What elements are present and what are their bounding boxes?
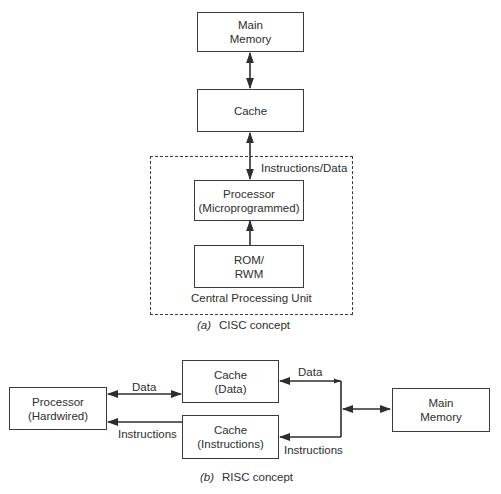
risc-main-memory-box: Main Memory [392,388,490,432]
cisc-processor-line2: (Microprogrammed) [199,201,300,215]
risc-processor-line2: (Hardwired) [28,409,88,423]
cisc-caption: (a)CISC concept [197,318,290,332]
cache-instructions-box: Cache (Instructions) [182,415,279,459]
rom-line2: RWM [235,267,264,281]
rom-rwm-box: ROM/ RWM [194,245,304,288]
rom-line1: ROM/ [234,253,264,267]
cpu-label: Central Processing Unit [191,291,312,305]
cisc-main-memory-line1: Main [238,18,263,32]
cisc-processor-box: Processor (Microprogrammed) [194,180,304,221]
cache-instructions-line1: Cache [214,423,247,437]
risc-data-label-left: Data [132,380,156,394]
cache-data-line1: Cache [214,368,247,382]
cisc-caption-text: CISC concept [219,319,290,331]
cisc-cache-label: Cache [234,104,267,118]
cisc-processor-line1: Processor [223,187,275,201]
cache-data-line2: (Data) [215,382,247,396]
cache-data-box: Cache (Data) [182,360,279,403]
cisc-main-memory-line2: Memory [230,32,272,46]
risc-data-label-right: Data [298,365,322,379]
risc-instructions-label-left: Instructions [118,427,177,441]
cache-instructions-line2: (Instructions) [197,437,263,451]
risc-main-memory-line1: Main [429,396,454,410]
risc-caption-text: RISC concept [222,471,293,483]
risc-caption-tag: (b) [200,471,214,483]
cisc-cache-box: Cache [197,89,304,132]
architecture-diagram: Main Memory Cache Instructions/Data Proc… [0,0,501,494]
risc-main-memory-line2: Memory [420,410,462,424]
instructions-data-label: Instructions/Data [261,161,347,175]
cisc-main-memory-box: Main Memory [197,12,304,52]
risc-processor-line1: Processor [32,395,84,409]
cisc-caption-tag: (a) [197,319,211,331]
risc-caption: (b)RISC concept [200,470,293,484]
risc-processor-box: Processor (Hardwired) [9,387,107,430]
risc-instructions-label-right: Instructions [284,443,343,457]
